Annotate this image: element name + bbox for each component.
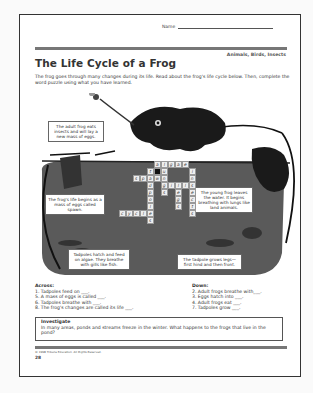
caption-young-frog: The young frog leaves the water. It begi…	[195, 187, 253, 213]
crossword-cell[interactable]: o	[147, 196, 154, 203]
crossword-cell[interactable]: s	[133, 175, 140, 182]
page-number: 28	[35, 355, 41, 360]
intro-text: The frog goes through many changes durin…	[35, 74, 290, 85]
crossword-cell[interactable]: u	[161, 168, 168, 175]
crossword-cell[interactable]: d	[147, 182, 154, 189]
caption-tadpole-legs: The tadpole grows legs—first hind and th…	[177, 254, 242, 270]
crossword-cell[interactable]: l	[140, 210, 147, 217]
crossword-cell[interactable]: c	[189, 196, 196, 203]
crossword-cell[interactable]: a	[175, 161, 182, 168]
crossword-cell[interactable]: c	[133, 210, 140, 217]
crossword-cell[interactable]: n	[189, 175, 196, 182]
crossword-cell[interactable]: s	[161, 189, 168, 196]
crossword-cell[interactable]: e	[189, 189, 196, 196]
crossword-cell[interactable]: c	[119, 210, 126, 217]
across-clues: Across: 1. Tadpoles feed on ___. 5. A ma…	[35, 283, 134, 311]
caption-tadpole-hatch: Tadpoles hatch and feed on algae. They b…	[68, 249, 130, 270]
crossword-cell[interactable]: t	[189, 203, 196, 210]
caption-adult-frog: The adult frog eats insects and will lay…	[48, 121, 104, 142]
worksheet-page: Name Animals, Birds, Insects The Life Cy…	[19, 14, 301, 377]
copyright-text: © 1998 Tribune Education. All Rights Res…	[35, 350, 102, 354]
crossword-cell[interactable]: g	[161, 182, 168, 189]
bottom-divider	[35, 346, 287, 349]
crossword-cell[interactable]: n	[161, 175, 168, 182]
crossword-cell[interactable]: e	[182, 161, 189, 168]
crossword-cell[interactable]: s	[189, 210, 196, 217]
crossword-cell[interactable]: w	[154, 175, 161, 182]
frog-life-cycle-illustration: The adult frog eats insects and will lay…	[20, 93, 302, 283]
crossword-cell[interactable]: e	[147, 210, 154, 217]
name-field-row: Name	[162, 24, 273, 29]
crossword-cell[interactable]: t	[147, 168, 154, 175]
crossword-cell[interactable]: s	[147, 217, 154, 224]
crossword-cell[interactable]: g	[168, 161, 175, 168]
page-title: The Life Cycle of a Frog	[35, 57, 176, 69]
crossword-cell[interactable]: l	[147, 203, 154, 210]
crossword-cell[interactable]: g	[175, 196, 182, 203]
crossword-cell[interactable]: s	[189, 182, 196, 189]
investigate-text: In many areas, ponds and streams freeze …	[41, 325, 277, 336]
crossword-cell[interactable]: i	[168, 182, 175, 189]
caption-spawn: The frog's life begins as a mass of eggs…	[45, 194, 105, 215]
clue-across-8: 8. The frog's changes are called its lif…	[35, 305, 134, 311]
crossword-black-cell	[154, 168, 161, 175]
crossword-cell[interactable]: l	[161, 161, 168, 168]
top-divider	[35, 47, 287, 50]
crossword-cell[interactable]: p	[147, 189, 154, 196]
crossword-cell[interactable]: p	[140, 175, 147, 182]
crossword-cell[interactable]: s	[175, 203, 182, 210]
crossword-cell[interactable]: y	[126, 210, 133, 217]
crossword-cell[interactable]: a	[154, 161, 161, 168]
down-clues: Down: 2. Adult frogs breathe with___. 3.…	[192, 283, 262, 311]
investigate-box: Investigate In many areas, ponds and str…	[35, 317, 283, 341]
crossword-cell[interactable]: a	[147, 175, 154, 182]
crossword-cell[interactable]: i	[189, 168, 196, 175]
crossword-cell[interactable]: l	[182, 182, 189, 189]
clue-down-7: 7. Tadpoles grow ___.	[192, 305, 262, 311]
category-label: Animals, Birds, Insects	[227, 52, 286, 57]
crossword-cell[interactable]: e	[175, 189, 182, 196]
name-input-line[interactable]	[178, 28, 273, 29]
crossword-cell[interactable]: l	[175, 182, 182, 189]
name-label: Name	[162, 24, 175, 29]
